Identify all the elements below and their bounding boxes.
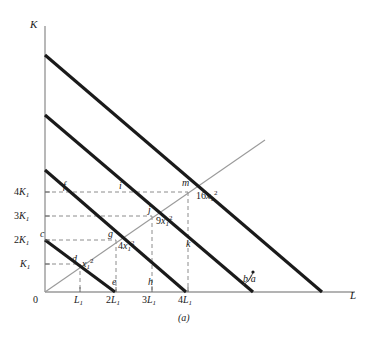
y-tick-3K1: 3K1 [14, 211, 29, 223]
isoquant-chart-svg [0, 0, 379, 340]
isoquant-label-4x1sq: 4x12 [118, 240, 134, 253]
point-label-e: e [112, 277, 116, 287]
isoquant-4x1sq [45, 170, 186, 292]
point-label-c: c [40, 229, 44, 239]
point-label-j: j [148, 205, 151, 215]
point-label-g: g [108, 229, 113, 239]
point-label-d: d [72, 254, 77, 264]
x-axis-label: L [350, 290, 356, 301]
x-tick-3L1: 3L1 [142, 295, 156, 307]
isoquant-figure: K L 0 K1 2K1 3K1 4K1 L1 2L1 3L1 4L1 c d … [0, 0, 379, 340]
x-tick-2L1: 2L1 [106, 295, 120, 307]
y-axis-ticks [45, 192, 50, 264]
x-tick-4L1: 4L1 [178, 295, 192, 307]
isoquant-label-x1sq: x12 [82, 258, 93, 271]
slope-label-b-over-a: b/a [243, 274, 256, 284]
isoquant-16x1sq [45, 55, 322, 292]
point-label-i: i [119, 181, 122, 191]
isoquant-label-9x1sq: 9x12 [156, 215, 172, 228]
y-axis-label: K [30, 19, 37, 30]
y-tick-K1: K1 [20, 259, 30, 271]
point-label-h: h [148, 277, 153, 287]
isoquant-label-16x1sq: 16x12 [196, 190, 217, 203]
x-axis-ticks [80, 287, 188, 292]
x-tick-L1: L1 [74, 295, 83, 307]
figure-caption: (a) [178, 313, 190, 323]
origin-label: 0 [33, 295, 38, 305]
point-label-m: m [182, 178, 189, 188]
point-label-f: f [63, 181, 66, 191]
y-tick-4K1: 4K1 [14, 187, 29, 199]
y-tick-2K1: 2K1 [14, 235, 29, 247]
point-label-k: k [186, 239, 190, 249]
isoquant-lines [45, 55, 322, 292]
